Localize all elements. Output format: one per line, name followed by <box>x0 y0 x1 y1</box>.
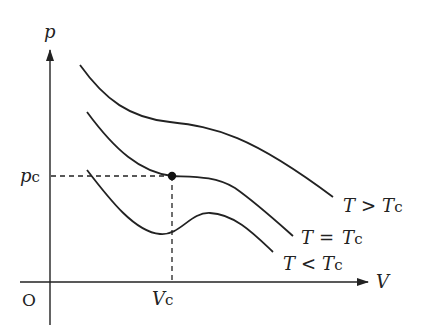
isotherm-below-critical <box>87 170 273 252</box>
label-t-greater-tc: T>Tc <box>343 195 403 216</box>
y-axis-label: p <box>44 21 56 42</box>
x-axis-label: V <box>376 271 391 292</box>
isotherm-critical <box>87 112 293 236</box>
label-t-less-tc: T<Tc <box>283 253 343 274</box>
pc-label: pc <box>20 165 40 186</box>
pv-diagram: p V O pc Vc T>Tc T=Tc T<Tc <box>0 0 435 329</box>
origin-label: O <box>22 290 36 310</box>
isotherm-above-critical <box>80 65 333 197</box>
critical-point <box>168 172 176 180</box>
vc-label: Vc <box>152 288 173 309</box>
label-t-equal-tc: T=Tc <box>301 227 363 248</box>
